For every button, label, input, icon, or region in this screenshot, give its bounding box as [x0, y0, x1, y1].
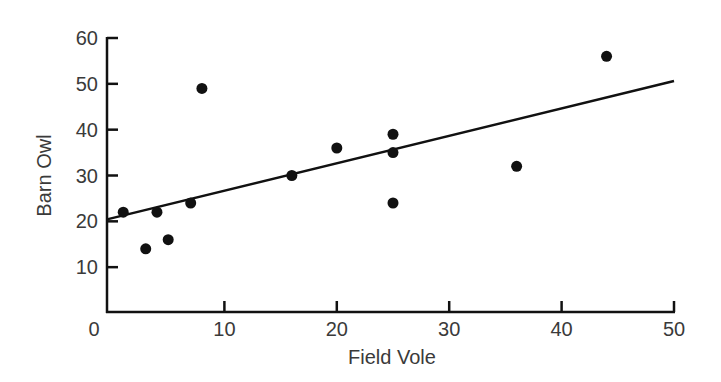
x-ticks: 01020304050 — [88, 301, 685, 340]
y-tick-label: 60 — [76, 27, 98, 49]
axes — [106, 37, 675, 313]
data-point — [196, 83, 207, 94]
y-ticks: 102030405060 — [76, 27, 118, 278]
data-point — [331, 143, 342, 154]
data-point — [601, 51, 612, 62]
data-point — [388, 129, 399, 140]
data-point — [388, 198, 399, 209]
x-tick-label: 40 — [550, 318, 572, 340]
data-point — [118, 207, 129, 218]
y-tick-label: 40 — [76, 119, 98, 141]
x-axis-title: Field Vole — [348, 346, 436, 368]
data-point — [163, 234, 174, 245]
data-point — [185, 198, 196, 209]
data-point — [388, 147, 399, 158]
data-point — [140, 243, 151, 254]
data-point — [151, 207, 162, 218]
data-point — [511, 161, 522, 172]
scatter-chart: 102030405060 01020304050 Field Vole Barn… — [0, 0, 721, 382]
x-tick-label: 0 — [88, 318, 99, 340]
data-point — [286, 170, 297, 181]
y-tick-label: 50 — [76, 73, 98, 95]
y-tick-label: 20 — [76, 210, 98, 232]
x-tick-label: 10 — [213, 318, 235, 340]
y-axis-title: Barn Owl — [33, 134, 55, 216]
y-tick-label: 30 — [76, 165, 98, 187]
x-tick-label: 20 — [326, 318, 348, 340]
x-tick-label: 30 — [438, 318, 460, 340]
y-tick-label: 10 — [76, 256, 98, 278]
data-points — [118, 51, 612, 255]
x-tick-label: 50 — [663, 318, 685, 340]
